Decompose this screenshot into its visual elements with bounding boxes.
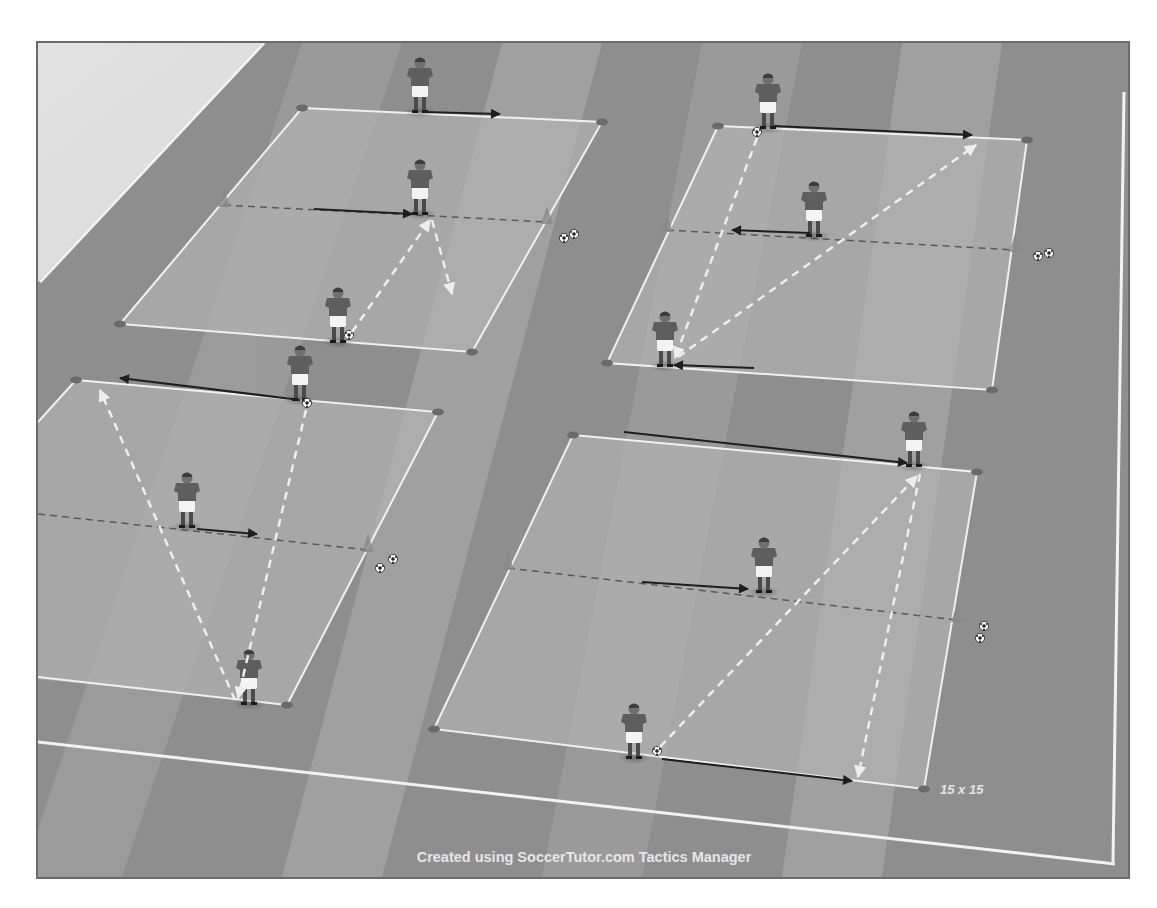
credit-text: Created using SoccerTutor.com Tactics Ma…	[417, 849, 752, 865]
drill-diagram: 15 x 15 Created using SoccerTutor.com Ta…	[0, 0, 1157, 908]
pitch-canvas: 15 x 15 Created using SoccerTutor.com Ta…	[38, 43, 1128, 877]
grid-size-label: 15 x 15	[940, 782, 984, 797]
diagram-frame: 15 x 15 Created using SoccerTutor.com Ta…	[36, 41, 1130, 879]
